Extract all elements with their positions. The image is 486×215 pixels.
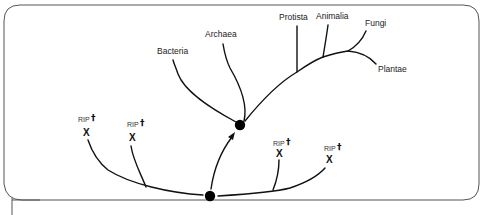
extinction-x-icon: X bbox=[83, 127, 90, 138]
rip-label: RIP bbox=[127, 121, 139, 128]
arrowhead-icon bbox=[228, 132, 235, 140]
branch-right-trunk bbox=[218, 168, 325, 196]
rip-label: RIP bbox=[324, 145, 336, 152]
branch-extinct-2 bbox=[131, 146, 146, 187]
node-upper bbox=[235, 120, 245, 130]
extinct-lineage-4: RIP † X bbox=[324, 142, 342, 165]
branch-animalia bbox=[323, 25, 328, 57]
label-plantae: Plantae bbox=[378, 64, 407, 74]
tree-of-life-diagram: Bacteria Archaea Protista Animalia Fungi… bbox=[0, 0, 486, 215]
label-animalia: Animalia bbox=[316, 11, 349, 21]
branch-fungi bbox=[348, 31, 366, 51]
label-fungi: Fungi bbox=[365, 18, 386, 28]
dagger-icon: † bbox=[140, 118, 145, 128]
rip-label: RIP bbox=[78, 116, 90, 123]
extinction-x-icon: X bbox=[276, 148, 283, 159]
branch-plantae bbox=[348, 51, 376, 64]
branch-bacteria bbox=[173, 60, 236, 122]
extinct-lineage-1: RIP † X bbox=[78, 113, 96, 138]
extinct-lineage-3: RIP † X bbox=[273, 137, 291, 159]
extinction-x-icon: X bbox=[326, 154, 333, 165]
frame-border bbox=[4, 5, 479, 200]
node-lower bbox=[205, 191, 215, 201]
evolution-arrow bbox=[211, 137, 232, 189]
rip-label: RIP bbox=[273, 140, 285, 147]
label-protista: Protista bbox=[279, 12, 308, 22]
extinction-x-icon: X bbox=[129, 132, 136, 143]
dagger-icon: † bbox=[91, 113, 96, 123]
branch-extinct-3 bbox=[273, 160, 279, 190]
label-bacteria: Bacteria bbox=[157, 46, 188, 56]
dagger-icon: † bbox=[286, 137, 291, 147]
extinct-lineage-2: RIP † X bbox=[127, 118, 145, 143]
dagger-icon: † bbox=[337, 142, 342, 152]
branch-archaea bbox=[223, 44, 245, 121]
label-archaea: Archaea bbox=[205, 29, 237, 39]
